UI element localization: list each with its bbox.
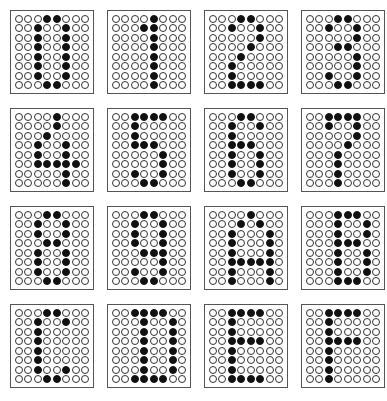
dot-empty [140, 81, 148, 89]
dot-empty [15, 318, 23, 326]
dot-empty [15, 328, 23, 336]
dot-filled [228, 141, 236, 149]
dot-filled [228, 160, 236, 168]
dot-empty [81, 53, 89, 61]
dot-empty [24, 160, 32, 168]
dot-empty [72, 356, 80, 364]
dot-empty [169, 160, 177, 168]
dot-empty [15, 151, 23, 159]
dot-empty [178, 356, 186, 364]
dot-empty [178, 15, 186, 23]
dot-empty [325, 230, 333, 238]
dot-empty [178, 268, 186, 276]
dot-empty [121, 43, 129, 51]
dot-empty [159, 141, 167, 149]
dot-empty [72, 151, 80, 159]
glyph-panel-B [301, 206, 385, 290]
dot-empty [112, 62, 120, 70]
dot-empty [15, 268, 23, 276]
dot-empty [169, 249, 177, 257]
dot-empty [275, 328, 283, 336]
dot-empty [315, 366, 323, 374]
dot-empty [209, 122, 217, 130]
dot-empty [15, 337, 23, 345]
dot-empty [43, 249, 51, 257]
dot-filled [62, 72, 70, 80]
dot-empty [275, 356, 283, 364]
dot-empty [140, 151, 148, 159]
dot-empty [150, 347, 158, 355]
dot-empty [315, 337, 323, 345]
dot-filled [140, 328, 148, 336]
dot-empty [325, 258, 333, 266]
dot-empty [81, 24, 89, 32]
dot-empty [209, 179, 217, 187]
dot-filled [228, 151, 236, 159]
dot-empty [112, 211, 120, 219]
dot-empty [315, 160, 323, 168]
dot-empty [34, 170, 42, 178]
dot-filled [34, 220, 42, 228]
dot-filled [62, 43, 70, 51]
dot-empty [372, 220, 380, 228]
dot-empty [325, 220, 333, 228]
dot-empty [266, 160, 274, 168]
dot-empty [72, 15, 80, 23]
dot-empty [43, 43, 51, 51]
glyph-panel-D [107, 304, 191, 388]
dot-filled [34, 24, 42, 32]
dot-empty [72, 337, 80, 345]
dot-empty [140, 239, 148, 247]
dot-filled [62, 24, 70, 32]
dot-empty [306, 34, 314, 42]
dot-empty [315, 211, 323, 219]
dot-empty [266, 72, 274, 80]
dot-filled [150, 375, 158, 383]
dot-empty [24, 309, 32, 317]
dot-empty [178, 375, 186, 383]
dot-empty [15, 170, 23, 178]
dot-empty [247, 34, 255, 42]
dot-empty [53, 132, 61, 140]
dot-empty [131, 15, 139, 23]
dot-empty [256, 141, 264, 149]
dot-empty [334, 34, 342, 42]
dot-empty [315, 239, 323, 247]
dot-empty [178, 24, 186, 32]
dot-empty [363, 15, 371, 23]
dot-empty [275, 170, 283, 178]
dot-empty [140, 15, 148, 23]
dot-filled [344, 113, 352, 121]
dot-empty [209, 72, 217, 80]
dot-filled [344, 43, 352, 51]
dot-empty [218, 249, 226, 257]
dot-filled [150, 179, 158, 187]
dot-filled [43, 277, 51, 285]
dot-empty [372, 268, 380, 276]
dot-empty [218, 132, 226, 140]
dot-empty [306, 53, 314, 61]
dot-empty [121, 337, 129, 345]
dot-empty [325, 53, 333, 61]
dot-empty [306, 43, 314, 51]
dot-empty [334, 132, 342, 140]
dot-filled [334, 249, 342, 257]
dot-empty [247, 239, 255, 247]
dot-filled [363, 258, 371, 266]
dot-empty [209, 258, 217, 266]
dot-empty [131, 53, 139, 61]
dot-filled [131, 141, 139, 149]
dot-empty [24, 239, 32, 247]
dot-empty [43, 347, 51, 355]
dot-filled [247, 309, 255, 317]
dot-empty [24, 113, 32, 121]
dot-empty [81, 72, 89, 80]
dot-empty [266, 309, 274, 317]
dot-empty [150, 160, 158, 168]
dot-filled [34, 268, 42, 276]
dot-empty [275, 366, 283, 374]
dot-filled [228, 366, 236, 374]
dot-empty [178, 132, 186, 140]
dot-filled [131, 132, 139, 140]
dot-empty [34, 81, 42, 89]
